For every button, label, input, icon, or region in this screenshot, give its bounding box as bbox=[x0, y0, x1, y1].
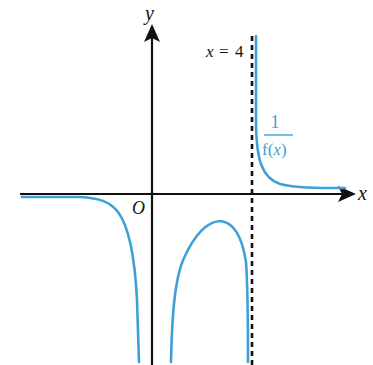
curve-left-branch bbox=[22, 197, 139, 362]
curve-1-over-f bbox=[22, 36, 345, 362]
x-axis-label: x bbox=[357, 182, 367, 204]
y-axis-label: y bbox=[143, 2, 154, 25]
origin-label: O bbox=[132, 198, 145, 218]
asymptote-label-x: x bbox=[205, 42, 214, 61]
curve-middle-branch bbox=[171, 221, 248, 362]
denominator-close: ) bbox=[281, 140, 287, 159]
asymptote-label: x = 4 bbox=[205, 42, 244, 61]
asymptote-label-value: 4 bbox=[235, 42, 244, 61]
graph-canvas: y x O x = 4 1 f(x) bbox=[0, 0, 373, 365]
curve-label-numerator: 1 bbox=[271, 112, 280, 132]
asymptote-label-eq: = bbox=[219, 42, 229, 61]
denominator-f: f( bbox=[262, 140, 274, 159]
curve-label-denominator: f(x) bbox=[262, 140, 287, 159]
curve-label: 1 f(x) bbox=[262, 112, 293, 159]
curve-right-branch bbox=[256, 36, 345, 188]
